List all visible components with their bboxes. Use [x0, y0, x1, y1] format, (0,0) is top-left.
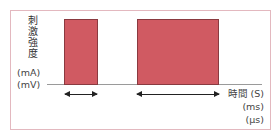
y-unit-ma: (mA): [17, 67, 40, 79]
y-unit-mv: (mV): [17, 79, 40, 91]
x-unit-ms: (ms): [222, 101, 264, 113]
stimulus-pulse-1: [64, 19, 98, 85]
y-axis-label: 刺 激 強 度: [27, 15, 39, 59]
pulse-width-arrow-1: [65, 94, 97, 95]
y-label-char: 度: [27, 48, 39, 59]
x-unit-us: (μs): [222, 114, 264, 126]
pulse-width-arrow-2: [137, 94, 219, 95]
stimulus-pulse-2: [137, 19, 219, 85]
y-label-char: 刺: [27, 15, 39, 26]
y-label-char: 強: [27, 37, 39, 48]
x-axis-label: 時間 (S): [222, 88, 264, 100]
y-label-char: 激: [27, 26, 39, 37]
